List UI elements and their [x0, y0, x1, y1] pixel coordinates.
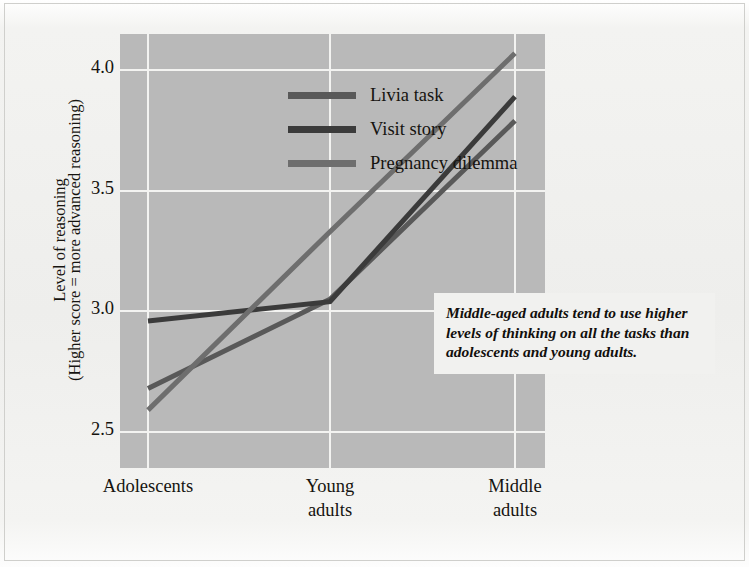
- legend-label-visit-story: Visit story: [370, 119, 447, 140]
- y-tick-3-0: 3.0: [70, 298, 114, 319]
- legend-item-visit-story: Visit story: [288, 112, 588, 146]
- annotation-callout: Middle-aged adults tend to use higher le…: [434, 293, 715, 374]
- x-tick-young-adults: Young adults: [250, 474, 410, 522]
- y-axis-tick-labels: 4.0 3.5 3.0 2.5: [66, 34, 114, 468]
- x-tick-adolescents-line1: Adolescents: [103, 476, 193, 496]
- legend-swatch-livia-task: [288, 92, 356, 99]
- x-tick-middle-adults-line2: adults: [493, 500, 537, 520]
- x-axis-tick-labels: Adolescents Young adults Middle adults: [0, 474, 749, 534]
- legend-swatch-visit-story: [288, 126, 356, 133]
- plot-area: Livia task Visit story Pregnancy dilemma: [120, 34, 545, 468]
- x-tick-middle-adults: Middle adults: [435, 474, 595, 522]
- y-tick-3-5: 3.5: [70, 178, 114, 199]
- legend-item-pregnancy-dilemma: Pregnancy dilemma: [288, 146, 588, 180]
- chart-page: Level of reasoning (Higher score = more …: [0, 0, 749, 567]
- legend-label-livia-task: Livia task: [370, 85, 443, 106]
- x-tick-adolescents: Adolescents: [68, 474, 228, 498]
- y-tick-4-0: 4.0: [70, 57, 114, 78]
- x-tick-young-adults-line2: adults: [308, 500, 352, 520]
- legend-item-livia-task: Livia task: [288, 78, 588, 112]
- legend-label-pregnancy-dilemma: Pregnancy dilemma: [370, 153, 517, 174]
- legend-swatch-pregnancy-dilemma: [288, 160, 356, 167]
- x-tick-young-adults-line1: Young: [306, 476, 355, 496]
- x-tick-middle-adults-line1: Middle: [488, 476, 541, 496]
- legend: Livia task Visit story Pregnancy dilemma: [288, 78, 588, 180]
- y-tick-2-5: 2.5: [70, 419, 114, 440]
